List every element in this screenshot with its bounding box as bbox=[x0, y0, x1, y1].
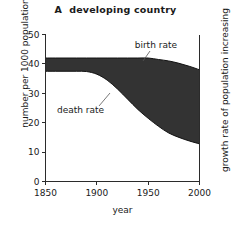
y-tick-label: 20 bbox=[28, 118, 40, 128]
x-tick-label: 1850 bbox=[34, 188, 57, 198]
birth-rate-label: birth rate bbox=[135, 40, 178, 50]
y-tick-label: 40 bbox=[28, 59, 40, 69]
y-tick-label: 50 bbox=[28, 30, 40, 40]
y-tick-label: 10 bbox=[28, 147, 40, 157]
death-rate-leader-line bbox=[99, 93, 110, 106]
x-tick-label: 2000 bbox=[188, 188, 211, 198]
x-tick-label: 1950 bbox=[137, 188, 160, 198]
y-tick-label: 30 bbox=[28, 89, 40, 99]
y-tick-label: 0 bbox=[34, 177, 40, 187]
chart-figure: Adeveloping country number per 1000 popu… bbox=[0, 0, 231, 226]
death-rate-label: death rate bbox=[57, 105, 105, 115]
x-tick-label: 1900 bbox=[85, 188, 108, 198]
plot-area: 010203040501850190019502000birth ratedea… bbox=[0, 0, 231, 226]
